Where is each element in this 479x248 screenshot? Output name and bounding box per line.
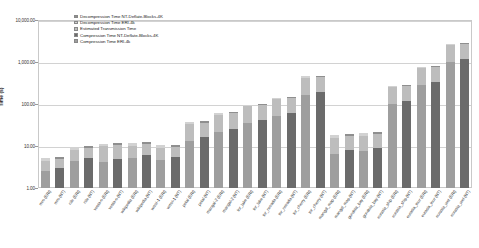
bar-group — [55, 157, 64, 188]
bar-segment — [431, 67, 440, 82]
bar-segment — [388, 104, 397, 188]
bar-segment — [287, 98, 296, 113]
legend-label: Compression Time NT-Deflate-Blocks-4K — [80, 33, 158, 38]
bar-group — [229, 112, 238, 188]
bar-segment — [258, 105, 267, 120]
bar-segment — [446, 62, 455, 188]
y-axis: 10,000.001,000.00100.0010.001.00 — [0, 20, 38, 188]
bar-segment — [84, 158, 93, 188]
bar-segment — [156, 160, 165, 188]
y-axis-title: Time (s) — [0, 87, 4, 106]
bar-group — [330, 135, 339, 188]
legend-item[interactable]: Decompression Time NT-Deflate-Blocks-4K — [74, 14, 163, 19]
legend-label: Decompression Time NT-Deflate-Blocks-4K — [80, 14, 163, 19]
bar-segment — [359, 136, 368, 151]
x-axis-tick-label: mro (NT) — [53, 189, 66, 205]
bar-group — [214, 113, 223, 188]
bar-segment — [301, 78, 310, 95]
bar-group — [171, 145, 180, 188]
bar-segment — [446, 45, 455, 62]
y-axis-tick-label: 10.00 — [24, 144, 35, 149]
bar-group — [446, 44, 455, 188]
bar-group — [345, 134, 354, 188]
bar-segment — [156, 148, 165, 160]
bar-segment — [258, 120, 267, 188]
legend-item[interactable]: Compression Time NT-Deflate-Blocks-4K — [74, 33, 163, 38]
bar-segment — [417, 85, 426, 188]
bar-segment — [55, 159, 64, 168]
bar-segment — [460, 59, 469, 188]
legend-swatch-icon — [74, 15, 78, 19]
bar-segment — [99, 146, 108, 161]
bar-group — [200, 121, 209, 188]
x-axis-labels: mro (ERI)mro (NT)nile (ERI)nile (NT)vest… — [38, 189, 472, 248]
legend-item[interactable]: Compression Time ERI-4k — [74, 39, 163, 44]
bar-segment — [330, 154, 339, 188]
bar-segment — [402, 101, 411, 188]
bar-segment — [431, 82, 440, 188]
bar-segment — [316, 92, 325, 188]
x-axis-tick-label: nile (NT) — [82, 189, 95, 205]
legend-label: Estimated Transmission Time — [80, 26, 136, 31]
bar-segment — [171, 147, 180, 157]
bar-segment — [99, 162, 108, 188]
bar-group — [258, 104, 267, 188]
legend-swatch-icon — [74, 21, 78, 25]
bar-segment — [41, 161, 50, 172]
bar-group — [388, 86, 397, 188]
bar-segment — [41, 171, 50, 188]
chart-container: 10,000.001,000.00100.0010.001.00 Time (s… — [0, 0, 479, 248]
y-axis-tick-label: 1,000.00 — [18, 60, 35, 65]
bar-segment — [214, 132, 223, 188]
legend-item[interactable]: Estimated Transmission Time — [74, 26, 163, 31]
bar-group — [84, 146, 93, 188]
bar-segment — [272, 116, 281, 188]
bar-segment — [272, 99, 281, 116]
bar-segment — [316, 77, 325, 93]
y-axis-tick-label: 1.00 — [26, 186, 35, 191]
bar-segment — [142, 144, 151, 155]
bar-segment — [55, 168, 64, 188]
bar-segment — [113, 145, 122, 159]
bar-group — [272, 98, 281, 188]
bar-segment — [200, 123, 209, 138]
bar-group — [373, 132, 382, 188]
bar-group — [113, 143, 122, 188]
legend-label: Decompression Time ERI-4k — [80, 20, 135, 25]
bar-segment — [330, 138, 339, 154]
bar-segment — [84, 148, 93, 158]
bar-group — [301, 76, 310, 188]
bars-layer — [38, 20, 472, 188]
bar-segment — [345, 136, 354, 150]
bar-group — [243, 105, 252, 188]
chart-legend: Decompression Time NT-Deflate-Blocks-4KD… — [74, 14, 163, 44]
bar-group — [156, 145, 165, 188]
bar-segment — [301, 95, 310, 188]
bar-segment — [128, 146, 137, 158]
bar-segment — [171, 157, 180, 188]
legend-swatch-icon — [74, 27, 78, 31]
bar-segment — [417, 68, 426, 85]
bar-segment — [388, 87, 397, 104]
legend-swatch-icon — [74, 39, 78, 43]
bar-group — [431, 66, 440, 188]
legend-item[interactable]: Decompression Time ERI-4k — [74, 20, 163, 25]
bar-group — [99, 144, 108, 188]
bar-group — [460, 43, 469, 188]
bar-segment — [185, 124, 194, 141]
y-axis-tick-label: 10,000.00 — [15, 18, 35, 23]
bar-segment — [359, 151, 368, 188]
bar-segment — [373, 134, 382, 148]
bar-group — [316, 76, 325, 188]
x-axis-tick-label: petal (ERI) — [181, 189, 196, 208]
legend-label: Compression Time ERI-4k — [80, 39, 130, 44]
bar-group — [41, 158, 50, 188]
bar-segment — [345, 150, 354, 188]
bar-group — [417, 67, 426, 188]
bar-segment — [402, 86, 411, 101]
legend-swatch-icon — [74, 33, 78, 37]
bar-segment — [128, 158, 137, 188]
bar-group — [359, 133, 368, 188]
bar-segment — [243, 123, 252, 188]
x-axis-tick-label: mro (ERI) — [38, 189, 52, 206]
